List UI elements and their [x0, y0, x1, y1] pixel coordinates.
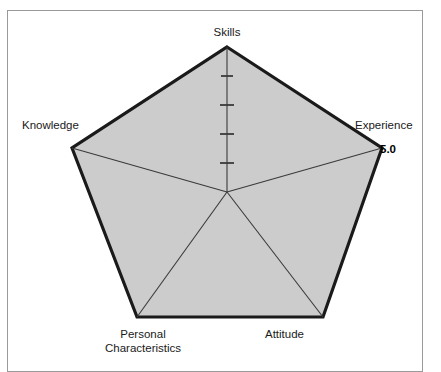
axis-label-knowledge: Knowledge — [22, 119, 79, 133]
data-label-experience-value: 5.0 — [380, 143, 396, 155]
axis-label-attitude: Attitude — [265, 328, 304, 342]
axis-label-experience: Experience — [355, 119, 413, 133]
axis-label-personal-line2: Characteristics — [105, 342, 181, 356]
axis-label-personal-line1: Personal — [105, 328, 181, 342]
axis-label-personal-characteristics: Personal Characteristics — [105, 328, 181, 355]
axis-label-skills: Skills — [214, 26, 241, 40]
